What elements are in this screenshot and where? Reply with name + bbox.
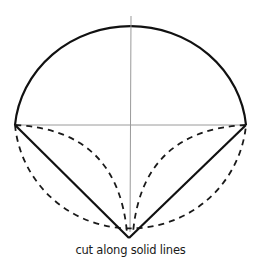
- right-chord-solid: [129, 125, 246, 238]
- diagram-caption: cut along solid lines: [0, 243, 261, 257]
- left-chord-solid: [15, 125, 129, 238]
- vertical-guide-line: [130, 16, 131, 232]
- circle-folding-diagram: [0, 0, 261, 270]
